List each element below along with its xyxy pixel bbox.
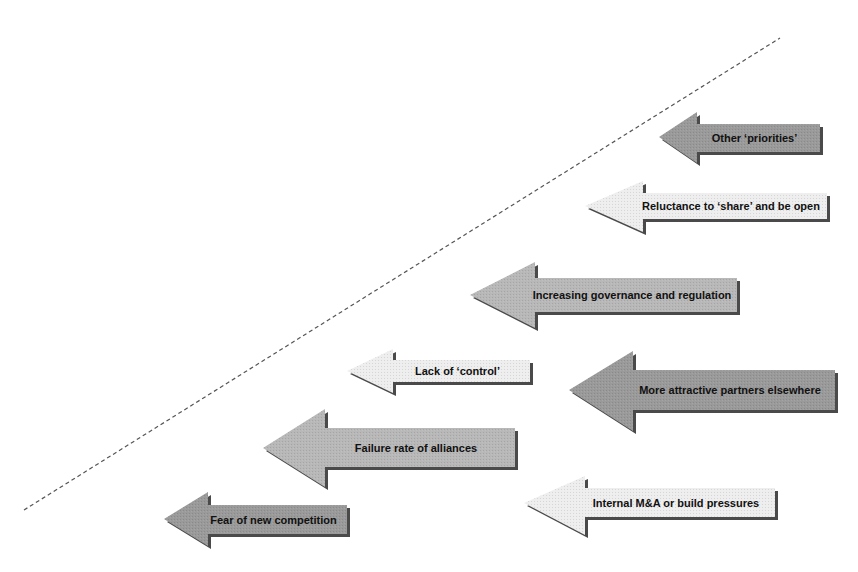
arrow-label-other-priorities: Other ‘priorities’ [689, 132, 820, 144]
arrow-label-internal-ma-pressures: Internal M&A or build pressures [577, 497, 775, 509]
arrow-label-lack-of-control: Lack of ‘control’ [385, 365, 530, 377]
arrow-label-failure-rate-of-alliances: Failure rate of alliances [317, 442, 515, 454]
arrow-label-more-attractive-partners: More attractive partners elsewhere [625, 384, 835, 396]
arrow-label-fear-of-new-competition: Fear of new competition [200, 514, 347, 526]
arrow-label-reluctance-to-share: Reluctance to ‘share’ and be open [635, 200, 827, 212]
diagram-svg [0, 0, 858, 572]
arrow-label-increasing-governance: Increasing governance and regulation [527, 289, 737, 301]
arrows-layer [164, 112, 838, 549]
diagram-canvas: Other ‘priorities’ Reluctance to ‘share’… [0, 0, 858, 572]
